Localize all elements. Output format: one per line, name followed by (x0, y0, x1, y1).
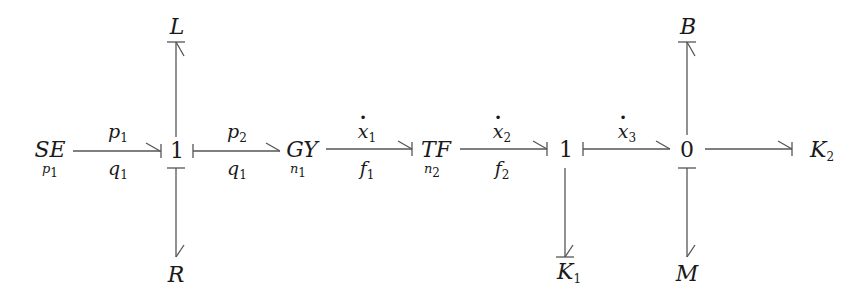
bond-label-q1: q1 (108, 159, 128, 181)
bond-label-xdot1: x1 (358, 122, 376, 144)
junction-1a: 1 (170, 140, 184, 162)
node-se: SE (34, 139, 65, 161)
bond-label-xdot3: x3 (618, 122, 636, 144)
node-gy-param: n1 (290, 162, 306, 179)
junction-0: 0 (680, 139, 694, 161)
node-k2: K2 (810, 139, 834, 163)
bond-label-q1b: q1 (227, 159, 247, 181)
node-gy: GY (286, 139, 318, 161)
node-tf-param: n2 (424, 162, 440, 179)
node-l: L (170, 16, 185, 38)
bond-label-p2: p2 (227, 122, 247, 144)
node-tf: TF (421, 139, 451, 161)
junction-1b: 1 (559, 139, 573, 161)
node-k1: K1 (557, 261, 581, 285)
bond-label-xdot2: x2 (493, 122, 511, 144)
node-m: M (676, 263, 699, 285)
bond-label-p1: p1 (108, 122, 128, 144)
bond-label-f1: f1 (360, 159, 375, 181)
node-b: B (680, 16, 696, 38)
bond-label-f2: f2 (495, 159, 510, 181)
node-se-param: p1 (42, 162, 58, 179)
node-r: R (168, 264, 185, 286)
